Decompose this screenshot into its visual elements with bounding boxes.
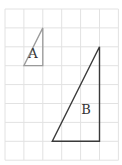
triangle-b <box>52 47 99 142</box>
triangle-b-label: B <box>81 102 91 117</box>
grid-lines <box>5 9 118 160</box>
triangle-a-label: A <box>27 46 38 61</box>
grid-diagram: A B <box>0 0 122 165</box>
